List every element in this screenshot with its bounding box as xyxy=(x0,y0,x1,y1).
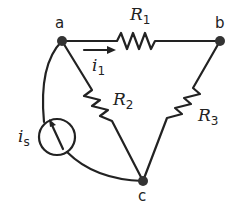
node-c xyxy=(138,176,148,186)
r1-label: R1 xyxy=(130,6,150,23)
source-arrow xyxy=(51,123,63,149)
r2-label: R2 xyxy=(113,91,133,108)
node-b xyxy=(215,36,225,46)
circuit-diagram: a b c R1 R2 R3 is i1 xyxy=(0,0,237,209)
is-label: is xyxy=(18,128,30,145)
node-a-label: a xyxy=(55,16,64,31)
node-a xyxy=(57,36,67,46)
node-b-label: b xyxy=(215,16,225,31)
i1-label: i1 xyxy=(92,57,105,74)
i1-arrowhead xyxy=(107,46,116,54)
node-c-label: c xyxy=(138,189,146,204)
wire-source xyxy=(43,41,62,122)
r3-label: R3 xyxy=(198,107,218,124)
wire-r1 xyxy=(62,33,220,49)
